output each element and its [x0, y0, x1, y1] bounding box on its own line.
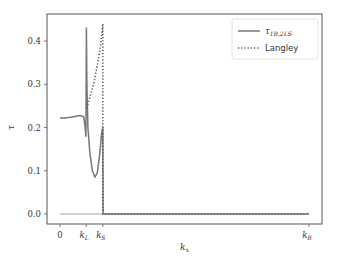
legend-label-langley: Langley [265, 43, 298, 53]
y-axis-label: τ [6, 124, 16, 130]
y-tick-label: 0.4 [27, 36, 41, 46]
y-tick-label: 0.3 [27, 79, 41, 89]
y-tick-label: 0.0 [27, 209, 41, 219]
x-axis-ticks: 0kLkSkB [57, 224, 312, 241]
x-tick-label: kB [302, 230, 312, 241]
x-tick-label: kS [96, 230, 105, 241]
x-tick-label: kL [80, 230, 89, 241]
y-axis-ticks: 0.00.10.20.30.4 [27, 36, 47, 219]
chart-svg: 0.00.10.20.30.4 0kLkSkB τ kx τ1B,2LS Lan… [0, 0, 338, 266]
y-tick-label: 0.2 [27, 123, 41, 133]
y-tick-label: 0.1 [27, 166, 41, 176]
x-tick-label: 0 [57, 230, 62, 240]
legend-box [232, 19, 318, 59]
legend: τ1B,2LS Langley [232, 19, 318, 59]
x-axis-label: kx [180, 242, 189, 254]
